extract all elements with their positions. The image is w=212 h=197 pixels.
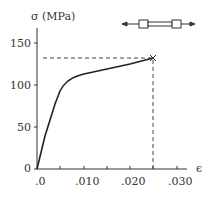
stress-strain-curve — [37, 58, 153, 169]
tensile-specimen-icon — [122, 20, 195, 28]
y-tick-label-100: 100 — [10, 79, 31, 92]
x-tick-label-030: .030 — [168, 175, 193, 188]
x-tick-label-020: .020 — [121, 175, 146, 188]
y-tick-label-50: 50 — [17, 121, 31, 134]
x-tick-label-0: .0 — [35, 175, 46, 188]
x-tick-label-010: .010 — [75, 175, 100, 188]
y-axis-label: σ (MPa) — [31, 10, 75, 23]
y-tick-label-150: 150 — [10, 37, 31, 50]
y-tick-label-0: 0 — [24, 162, 31, 175]
x-axis-label: ϵ — [196, 162, 202, 175]
stress-strain-chart: σ (MPa) 150 100 50 0 .0 .010 .020 .030 ϵ — [0, 0, 212, 197]
